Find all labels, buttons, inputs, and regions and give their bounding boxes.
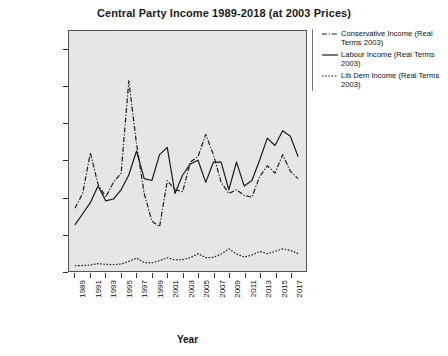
x-tick-mark (90, 273, 91, 278)
x-tick-mark (105, 273, 106, 278)
x-tick-label: 2017 (295, 280, 304, 298)
x-axis-title: Year (68, 334, 307, 345)
x-tick-mark (136, 273, 137, 278)
legend-item-label: Labour Income (Real Terms 2003) (341, 50, 448, 68)
chart-title: Central Party Income 1989-2018 (at 2003 … (0, 7, 448, 19)
y-tick-mark (63, 235, 68, 236)
x-tick-label: 2011 (249, 280, 258, 297)
legend-line-swatch (322, 73, 338, 83)
legend-item[interactable]: Lib Dem Income (Real Terms 2003) (322, 71, 448, 89)
legend-item[interactable]: Labour Income (Real Terms 2003) (322, 50, 448, 68)
x-tick-mark (214, 273, 215, 278)
x-tick-mark (183, 273, 184, 278)
chart-legend: Conservative Income (Real Terms 2003)Lab… (322, 29, 448, 92)
x-tick-label: 1999 (156, 280, 165, 298)
x-tick-label: 2005 (202, 280, 211, 298)
x-tick-mark (245, 273, 246, 278)
legend-item-label: Lib Dem Income (Real Terms 2003) (341, 71, 448, 89)
x-tick-label: 2007 (218, 280, 227, 298)
x-tick-label: 1997 (140, 280, 149, 298)
x-tick-mark (276, 273, 277, 278)
x-tick-mark (260, 273, 261, 278)
x-tick-mark (229, 273, 230, 278)
x-tick-mark (291, 273, 292, 278)
series-line (75, 249, 298, 266)
y-tick-mark (63, 198, 68, 199)
legend-item[interactable]: Conservative Income (Real Terms 2003) (322, 29, 448, 47)
plot-svg (69, 31, 306, 271)
x-tick-mark (198, 273, 199, 278)
y-tick-mark (63, 86, 68, 87)
x-tick-label: 1995 (125, 280, 134, 298)
x-tick-label: 2009 (233, 280, 242, 298)
x-tick-label: 1991 (94, 280, 103, 298)
x-tick-mark (152, 273, 153, 278)
x-tick-label: 2001 (171, 280, 180, 298)
x-tick-label: 2015 (280, 280, 289, 298)
y-tick-mark (63, 123, 68, 124)
x-tick-label: 2003 (187, 280, 196, 298)
x-tick-mark (121, 273, 122, 278)
x-tick-label: 1993 (109, 280, 118, 298)
legend-divider (312, 29, 313, 91)
y-tick-mark (63, 272, 68, 273)
plot-area (68, 30, 307, 272)
x-tick-label: 1989 (78, 280, 87, 298)
legend-item-label: Conservative Income (Real Terms 2003) (341, 29, 448, 47)
legend-line-swatch (322, 52, 338, 62)
x-tick-mark (74, 273, 75, 278)
x-tick-label: 2013 (264, 280, 273, 298)
legend-line-swatch (322, 31, 338, 41)
x-tick-mark (167, 273, 168, 278)
chart-figure: Central Party Income 1989-2018 (at 2003 … (0, 0, 448, 356)
series-line (75, 81, 298, 227)
y-tick-mark (63, 49, 68, 50)
y-tick-mark (63, 160, 68, 161)
